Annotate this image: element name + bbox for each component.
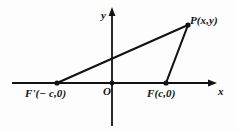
y-axis-label: y [101,10,106,21]
x-axis-arrowhead [208,80,217,87]
focal-triangle-figure: y x O P(x,y) F'(− c,0) F(c,0) [0,0,237,132]
focus-left-point [54,80,59,85]
y-axis-arrowhead [109,7,116,16]
focus-right-point [163,80,168,85]
focus-right-label: F(c,0) [147,88,175,99]
x-axis-label: x [218,86,224,97]
point-p-label: P(x,y) [190,15,218,26]
origin-label: O [103,86,111,97]
focus-left-label: F'(− c,0) [25,88,66,99]
